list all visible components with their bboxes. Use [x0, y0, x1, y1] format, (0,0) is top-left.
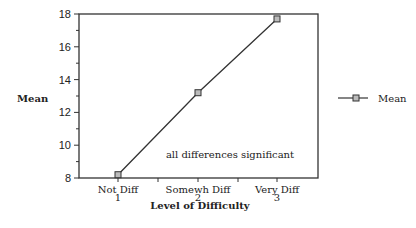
y-axis-ticks: 81012141618: [59, 8, 79, 184]
x-tick-number: 1: [115, 192, 121, 203]
x-tick-number: 3: [274, 192, 280, 203]
chart: 81012141618 Not Diff1Somewh Diff2Very Di…: [0, 0, 416, 228]
x-axis-label: Level of Difficulty: [150, 200, 251, 211]
data-point-marker: [274, 16, 280, 22]
legend-marker-icon: [353, 95, 359, 101]
y-tick-label: 8: [65, 172, 71, 184]
annotation: all differences significant: [166, 149, 294, 160]
y-tick-label: 14: [59, 74, 71, 86]
y-tick-label: 16: [59, 41, 71, 53]
y-tick-label: 12: [59, 106, 71, 118]
legend: Mean: [338, 93, 407, 104]
y-tick-label: 18: [59, 8, 71, 20]
y-tick-label: 10: [59, 139, 71, 151]
legend-label: Mean: [378, 93, 407, 104]
data-point-marker: [115, 172, 121, 178]
line-chart: 81012141618 Not Diff1Somewh Diff2Very Di…: [0, 0, 416, 228]
y-axis-label: Mean: [17, 93, 49, 104]
data-point-marker: [195, 90, 201, 96]
